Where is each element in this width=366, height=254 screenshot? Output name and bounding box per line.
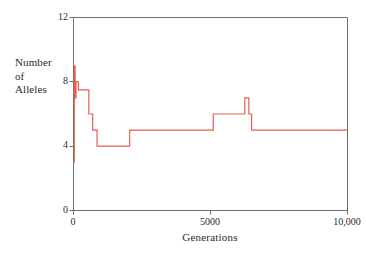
axis-frame (74, 18, 348, 211)
chart-figure: Number of Alleles 12 8 4 0 0 5000 10,000… (0, 0, 366, 254)
data-series-number-of-alleles (74, 66, 348, 163)
x-axis-ticks (74, 211, 348, 215)
plot-area (0, 0, 366, 254)
y-axis-ticks (70, 18, 74, 211)
